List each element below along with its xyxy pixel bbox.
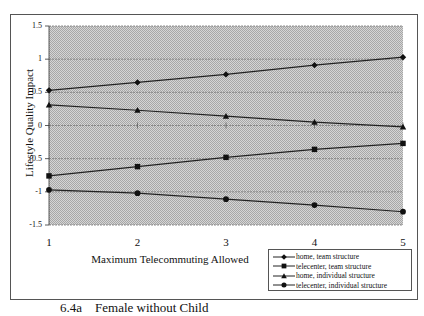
- y-tick-label: 1.5: [14, 21, 42, 30]
- diamond-marker-icon: [273, 253, 295, 261]
- legend-item: home, team structure: [273, 252, 411, 262]
- y-tick-label: 0.5: [14, 87, 42, 96]
- y-tick-label: 1: [14, 54, 42, 63]
- x-tick-label: 4: [305, 236, 325, 248]
- figure-caption: 6.4a Female without Child: [60, 300, 208, 316]
- x-tick-label: 2: [128, 236, 148, 248]
- x-tick-label: 1: [39, 236, 59, 248]
- x-tick-label: 3: [216, 236, 236, 248]
- y-tick-label: 0: [14, 121, 42, 130]
- x-tick-label: 5: [393, 236, 413, 248]
- x-axis-label: Maximum Telecommuting Allowed: [60, 253, 280, 265]
- legend-item: telecenter, individual structure: [273, 281, 411, 291]
- legend-item: home, individual structure: [273, 271, 411, 281]
- legend-item: telecenter, team structure: [273, 262, 411, 272]
- y-tick-label: -1.5: [14, 220, 42, 229]
- y-tick-label: -0.5: [14, 154, 42, 163]
- legend: home, team structure telecenter, team st…: [268, 249, 412, 291]
- y-tick-label: -1: [14, 187, 42, 196]
- triangle-marker-icon: [273, 272, 295, 280]
- circle-marker-icon: [273, 281, 295, 289]
- square-marker-icon: [273, 262, 295, 270]
